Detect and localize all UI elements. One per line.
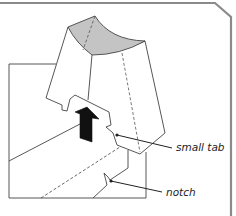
base-sheet-outline-bottom — [9, 152, 146, 198]
base-fold-line — [9, 124, 80, 161]
base-sheet-outline — [9, 64, 56, 198]
label-small-tab: small tab — [176, 141, 225, 153]
label-notch: notch — [166, 186, 196, 198]
notch-edge — [93, 150, 128, 198]
notch-leader — [111, 181, 162, 192]
instruction-diagram: small tab notch — [0, 0, 236, 216]
base-dashed-fold — [41, 147, 120, 198]
